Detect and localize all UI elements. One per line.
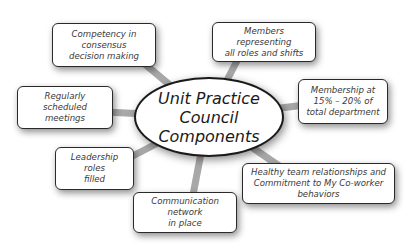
diagram-canvas: Competency in consensus decision making … (0, 0, 412, 251)
component-members: Members representing all roles and shift… (212, 22, 316, 62)
component-leadership: Leadership roles filled (55, 147, 134, 190)
component-communication: Communication network in place (133, 192, 237, 233)
component-meetings: Regularly scheduled meetings (17, 86, 113, 129)
hub-title: Unit Practice Council Components (136, 89, 282, 146)
component-label: Membership at 15% – 20% of total departm… (306, 85, 379, 118)
component-label: Communication network in place (138, 196, 232, 229)
component-label: Regularly scheduled meetings (22, 91, 108, 124)
component-label: Competency in consensus decision making (57, 29, 151, 62)
component-membership: Membership at 15% – 20% of total departm… (298, 79, 388, 124)
center-hub: Unit Practice Council Components (134, 77, 284, 157)
component-relationships: Healthy team relationships and Commitmen… (242, 163, 395, 204)
component-label: Healthy team relationships and Commitmen… (247, 167, 390, 200)
component-label: Members representing all roles and shift… (217, 26, 311, 59)
component-competency: Competency in consensus decision making (52, 23, 156, 67)
component-label: Leadership roles filled (60, 152, 129, 185)
